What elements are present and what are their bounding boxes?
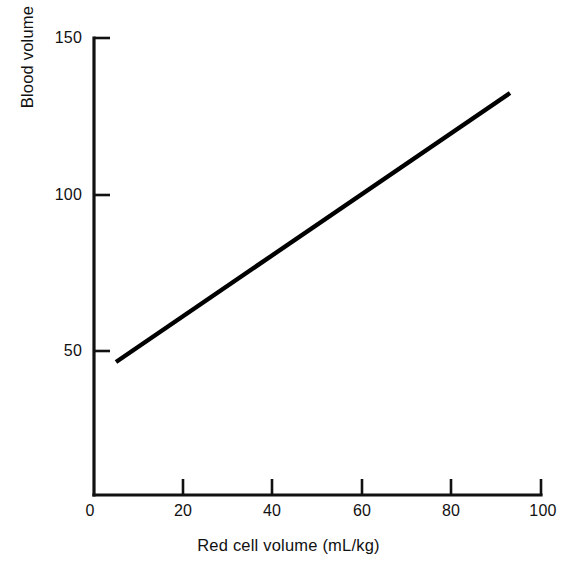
x-tick-label-100: 100 <box>529 502 556 520</box>
y-tick-label-150: 150 <box>34 29 82 47</box>
y-tick-label-100: 100 <box>34 186 82 204</box>
x-tick-label-60: 60 <box>353 502 371 520</box>
x-tick-label-20: 20 <box>174 502 192 520</box>
x-axis-title: Red cell volume (mL/kg) <box>0 536 577 555</box>
y-axis-title: Blood volume (mL/kg) <box>14 0 40 274</box>
y-tick-label-50: 50 <box>34 342 82 360</box>
x-tick-label-80: 80 <box>442 502 460 520</box>
plot-canvas <box>0 0 577 575</box>
plot-background <box>0 0 577 575</box>
x-tick-label-0: 0 <box>85 502 94 520</box>
x-tick-label-40: 40 <box>263 502 281 520</box>
chart-figure: 150 100 50 0 20 40 60 80 100 Red cell vo… <box>0 0 577 575</box>
